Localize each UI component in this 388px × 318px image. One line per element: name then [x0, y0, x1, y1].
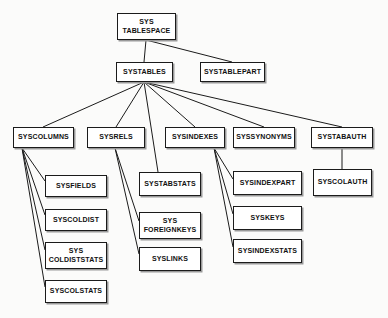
edge-sysindexes-to-sysindexstats [214, 148, 233, 247]
node-label-sysforeignkeys: SYS FOREIGNKEYS [144, 217, 197, 234]
node-label-sysindexpart: SYSINDEXPART [240, 179, 296, 188]
node-label-syscolumns: SYSCOLUMNS [18, 133, 69, 142]
node-systables[interactable]: SYSTABLES [116, 62, 173, 82]
edge-systablespace-to-systablepart [146, 40, 232, 62]
node-label-systabstats: SYSTABSTATS [144, 180, 195, 189]
node-syscolauth[interactable]: SYSCOLAUTH [313, 169, 372, 196]
node-sysindexes[interactable]: SYSINDEXES [165, 127, 225, 148]
node-syscolstats[interactable]: SYSCOLSTATS [45, 280, 107, 303]
diagram-canvas: SYS TABLESPACESYSTABLESSYSTABLEPARTSYSCO… [0, 0, 388, 318]
edge-sysindexes-to-sysindexpart [214, 148, 233, 179]
edge-systables-to-syscolumns [43, 82, 144, 127]
edge-syscolumns-to-syscolstats [22, 148, 45, 287]
node-label-syscolstats: SYSCOLSTATS [50, 287, 102, 296]
node-systabauth[interactable]: SYSTABAUTH [311, 127, 373, 148]
edge-syscolumns-to-syscoldiststats [22, 148, 45, 250]
node-syscolumns[interactable]: SYSCOLUMNS [13, 127, 74, 148]
edge-systables-to-systabstats [144, 82, 158, 172]
node-label-syscoldist: SYSCOLDIST [53, 216, 99, 225]
node-syslinks[interactable]: SYSLINKS [139, 247, 201, 271]
edge-systables-to-sysindexes [144, 82, 195, 127]
node-label-systables: SYSTABLES [123, 68, 166, 77]
node-systablespace[interactable]: SYS TABLESPACE [117, 13, 176, 40]
node-syscoldiststats[interactable]: SYS COLDISTSTATS [45, 242, 107, 269]
node-label-syslinks: SYSLINKS [152, 255, 188, 264]
edge-sysindexes-to-syskeys [214, 148, 233, 214]
edge-systables-to-syssynonyms [144, 82, 264, 127]
node-label-syscoldiststats: SYS COLDISTSTATS [49, 247, 103, 264]
node-label-sysfields: SYSFIELDS [56, 182, 96, 191]
edge-syscolumns-to-syscoldist [22, 148, 45, 215]
node-syskeys[interactable]: SYSKEYS [233, 206, 302, 230]
edge-systables-to-systabauth [144, 82, 342, 127]
node-label-sysrels: SYSRELS [99, 133, 133, 142]
edge-syscolumns-to-sysfields [22, 148, 45, 181]
node-label-systabauth: SYSTABAUTH [318, 133, 367, 142]
edge-sysrels-to-sysforeignkeys [115, 148, 139, 221]
node-sysindexpart[interactable]: SYSINDEXPART [233, 171, 302, 195]
node-label-sysindexes: SYSINDEXES [172, 133, 218, 142]
node-label-syssynonyms: SYSSYNONYMS [236, 133, 292, 142]
node-label-syscolauth: SYSCOLAUTH [318, 178, 368, 187]
node-sysfields[interactable]: SYSFIELDS [45, 175, 107, 197]
node-syscoldist[interactable]: SYSCOLDIST [45, 209, 107, 231]
node-label-syskeys: SYSKEYS [250, 214, 284, 223]
edge-systables-to-sysrels [116, 82, 144, 127]
node-syssynonyms[interactable]: SYSSYNONYMS [233, 127, 295, 148]
node-sysrels[interactable]: SYSRELS [87, 127, 145, 148]
edge-sysrels-to-syslinks [115, 148, 139, 254]
node-label-systablepart: SYSTABLEPART [204, 68, 261, 77]
node-systabstats[interactable]: SYSTABSTATS [139, 172, 201, 196]
node-systablepart[interactable]: SYSTABLEPART [200, 62, 265, 82]
node-label-systablespace: SYS TABLESPACE [123, 18, 171, 35]
edge-systablespace-to-systables [144, 40, 146, 62]
node-label-sysindexstats: SYSINDEXSTATS [238, 247, 297, 256]
node-sysforeignkeys[interactable]: SYS FOREIGNKEYS [139, 212, 201, 239]
node-sysindexstats[interactable]: SYSINDEXSTATS [233, 239, 302, 263]
